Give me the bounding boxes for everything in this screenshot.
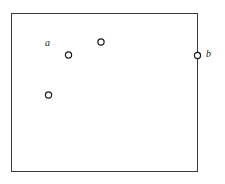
diagram-svg [0,0,225,184]
point-marker-on-boundary [194,52,200,58]
point-marker-lower-left [45,92,51,98]
point-marker-middle [65,52,71,58]
figure-canvas: a b [0,0,225,184]
point-marker-top [98,39,104,45]
point-label-b: b [206,49,211,59]
rectangle-region-boundary [12,14,198,172]
point-label-a: a [45,38,50,48]
